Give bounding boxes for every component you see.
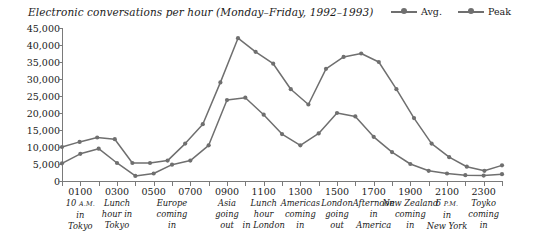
data-point	[207, 143, 211, 147]
data-point	[183, 142, 187, 146]
series-line-avg	[62, 98, 502, 176]
x-axis-tick-label: 0100	[68, 186, 92, 197]
y-axis-tick-label: 40,000	[4, 40, 60, 51]
x-axis-annotation: 6 P.M.inNew York	[427, 198, 468, 232]
x-axis-tick-label: 1900	[398, 186, 422, 197]
data-point	[95, 135, 99, 139]
data-point	[394, 87, 398, 91]
legend-label-peak: Peak	[488, 6, 511, 17]
chart-title: Electronic conversations per hour (Monda…	[28, 6, 373, 18]
x-axis-tick-label: 0300	[105, 186, 129, 197]
legend-marker-avg-icon	[391, 7, 417, 16]
y-axis-tick-label: 0	[4, 176, 60, 187]
data-point	[243, 96, 247, 100]
data-point	[271, 62, 275, 66]
x-axis-tick-label: 1700	[362, 186, 386, 197]
data-point	[152, 171, 156, 175]
data-point	[335, 111, 339, 115]
data-point	[342, 55, 346, 59]
data-point	[306, 102, 310, 106]
data-point	[225, 98, 229, 102]
data-point	[445, 171, 449, 175]
data-point	[317, 131, 321, 135]
legend-marker-peak-icon	[458, 7, 484, 16]
y-axis-tick-label: 30,000	[4, 74, 60, 85]
data-point	[254, 50, 258, 54]
x-axis-tick-label: 2300	[472, 186, 496, 197]
data-point	[465, 165, 469, 169]
data-point	[289, 87, 293, 91]
data-point	[60, 161, 64, 165]
data-point	[298, 143, 302, 147]
data-point	[430, 142, 434, 146]
data-point	[353, 114, 357, 118]
x-axis-tick-label: 1100	[252, 186, 276, 197]
x-axis-annotation: Europecomingin	[157, 198, 188, 231]
data-point	[97, 147, 101, 151]
x-axis-annotation: Americascomingin	[281, 198, 320, 231]
data-point	[427, 169, 431, 173]
data-point	[113, 137, 117, 141]
legend-item-peak: Peak	[458, 6, 511, 17]
x-axis-annotation: Asiagoingout	[215, 198, 239, 231]
x-axis-tick-label: 1300	[288, 186, 312, 197]
y-axis-tick-label: 10,000	[4, 142, 60, 153]
y-axis-tick-label: 5,000	[4, 159, 60, 170]
chart-page: Electronic conversations per hour (Monda…	[0, 0, 535, 244]
data-point	[133, 174, 137, 178]
data-point	[78, 152, 82, 156]
data-point	[60, 145, 64, 149]
series-lines	[62, 28, 502, 181]
data-point	[463, 173, 467, 177]
data-point	[359, 51, 363, 55]
data-point	[372, 135, 376, 139]
plot-area	[62, 28, 502, 181]
series-line-peak	[62, 38, 502, 171]
legend-label-avg: Avg.	[421, 6, 442, 17]
x-axis-tick-label: 0700	[178, 186, 202, 197]
data-point	[482, 173, 486, 177]
x-axis-annotation: Toykocomingin	[468, 198, 499, 231]
x-axis-tick-label: 0900	[215, 186, 239, 197]
y-axis-tick-label: 35,000	[4, 57, 60, 68]
data-point	[148, 161, 152, 165]
chart-legend: Avg. Peak	[391, 6, 511, 17]
x-axis-tick-label: 2100	[435, 186, 459, 197]
data-point	[166, 159, 170, 163]
data-point	[78, 140, 82, 144]
x-axis-annotation: Londongoingout	[321, 198, 353, 231]
data-point	[236, 36, 240, 40]
data-point	[408, 162, 412, 166]
data-point	[218, 80, 222, 84]
x-axis-annotation: Lunchhour inTokyo	[102, 198, 132, 231]
data-point	[377, 60, 381, 64]
data-point	[201, 122, 205, 126]
data-point	[324, 67, 328, 71]
y-axis-tick-label: 15,000	[4, 125, 60, 136]
data-point	[130, 161, 134, 165]
x-axis-tick-label: 1500	[325, 186, 349, 197]
x-axis-annotation: Lunchhourin London	[243, 198, 285, 231]
data-point	[412, 116, 416, 120]
y-axis-tick-label: 25,000	[4, 91, 60, 102]
data-point	[500, 163, 504, 167]
data-point	[447, 155, 451, 159]
y-axis-tick-label: 45,000	[4, 23, 60, 34]
x-axis-annotation: 10 A.M.inTokyo	[66, 198, 95, 232]
data-point	[482, 169, 486, 173]
data-point	[188, 159, 192, 163]
data-point	[500, 172, 504, 176]
data-point	[280, 132, 284, 136]
y-axis-tick-label: 20,000	[4, 108, 60, 119]
data-point	[262, 113, 266, 117]
x-axis-tick-label: 0500	[142, 186, 166, 197]
data-point	[115, 161, 119, 165]
x-axis-annotations: 10 A.M.inTokyoLunchhour inTokyoEuropecom…	[0, 198, 535, 244]
data-point	[170, 163, 174, 167]
data-point	[390, 150, 394, 154]
legend-item-avg: Avg.	[391, 6, 442, 17]
